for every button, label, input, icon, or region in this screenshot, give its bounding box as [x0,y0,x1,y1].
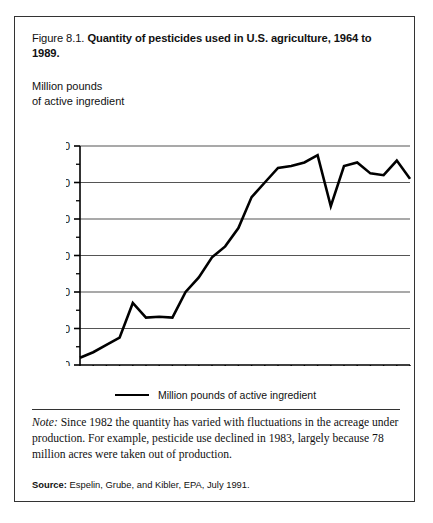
pesticide-use-line [80,155,410,358]
line-chart-svg: 300400500600700800900 196419691974197919… [66,136,411,366]
chart-legend: Million pounds of active ingredient [15,389,416,401]
source-block: Source: Espelin, Grube, and Kibler, EPA,… [32,479,400,490]
y-tick-label: 900 [66,140,70,152]
y-tick-label: 700 [66,213,70,225]
y-tick-label: 800 [66,177,70,189]
gridlines-group [80,146,410,329]
y-tick-label: 500 [66,286,70,298]
y-axis-caption: Million pounds of active ingredient [32,79,124,108]
figure-title: Figure 8.1. Quantity of pesticides used … [32,31,392,61]
legend-label: Million pounds of active ingredient [158,389,316,401]
y-tick-label: 600 [66,250,70,262]
y-tick-label: 300 [66,359,70,366]
source-label: Source: [32,479,67,490]
note-divider [32,409,400,410]
note-text: Since 1982 the quantity has varied with … [32,416,398,461]
note-label: Note: [32,416,58,429]
figure-number: Figure 8.1. [32,32,84,44]
y-tick-label: 400 [66,323,70,335]
note-block: Note: Since 1982 the quantity has varied… [32,415,400,464]
legend-line-swatch [115,394,149,396]
figure-container: Figure 8.1. Quantity of pesticides used … [14,16,415,502]
y-tick-group: 300400500600700800900 [66,140,80,366]
source-text: Espelin, Grube, and Kibler, EPA, July 19… [67,479,250,490]
chart-plot-area: 300400500600700800900 196419691974197919… [66,136,411,366]
